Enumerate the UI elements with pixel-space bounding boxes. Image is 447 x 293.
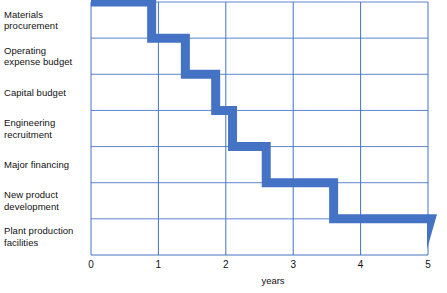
- x-tick-label: 3: [283, 259, 303, 270]
- row-label: Capital budget: [4, 87, 66, 99]
- x-tick-label: 1: [148, 259, 168, 270]
- staircase-series-group: [91, 2, 437, 249]
- chart-container: Materials procurementOperating expense b…: [0, 0, 447, 293]
- x-tick-label: 5: [418, 259, 438, 270]
- row-label: Plant production facilities: [4, 225, 73, 248]
- row-label: Operating expense budget: [4, 45, 72, 68]
- x-tick-label: 0: [81, 259, 101, 270]
- x-tick-label: 2: [216, 259, 236, 270]
- row-label: New product development: [4, 189, 59, 212]
- x-axis-title: years: [243, 275, 303, 286]
- x-tick-label: 4: [351, 259, 371, 270]
- row-label: Major financing: [4, 159, 69, 171]
- row-label: Engineering recruitment: [4, 117, 55, 140]
- cascade-arrowhead: [427, 214, 437, 249]
- row-label: Materials procurement: [4, 9, 58, 32]
